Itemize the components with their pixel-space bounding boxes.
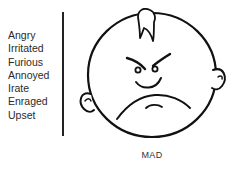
face-caption: MAD: [132, 150, 172, 160]
synonym-item: Furious: [8, 56, 49, 69]
synonym-list: Angry Irritated Furious Annoyed Irate En…: [8, 29, 49, 122]
synonym-item: Annoyed: [8, 69, 49, 82]
synonym-item: Irate: [8, 82, 49, 95]
vertical-divider: [62, 12, 64, 136]
synonym-item: Enraged: [8, 95, 49, 108]
synonym-item: Irritated: [8, 42, 49, 55]
synonym-item: Angry: [8, 29, 49, 42]
mad-face-icon: [72, 8, 234, 148]
synonym-item: Upset: [8, 109, 49, 122]
